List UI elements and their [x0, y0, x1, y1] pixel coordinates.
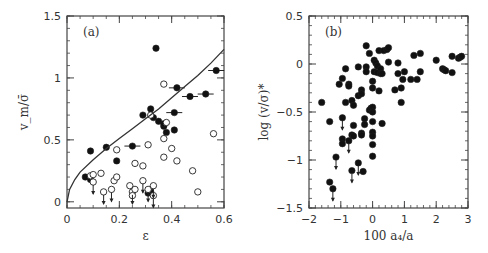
down-arrow-icon: [146, 198, 150, 202]
data-point-filled: [369, 78, 375, 84]
data-point-filled: [355, 64, 361, 70]
data-point-filled: [339, 75, 345, 81]
down-arrow-icon: [347, 150, 351, 154]
data-point-open: [169, 145, 175, 151]
x-axis-title: ε: [142, 229, 148, 243]
data-point-filled: [369, 153, 375, 159]
data-point-open: [161, 154, 167, 160]
data-point-filled: [369, 141, 375, 147]
data-point-filled: [140, 112, 146, 118]
down-arrow-icon: [102, 201, 106, 205]
down-arrow-icon: [356, 172, 360, 176]
data-point-filled: [458, 53, 464, 59]
data-point-filled: [417, 69, 423, 75]
data-point-filled: [163, 129, 169, 135]
x-tick-label: 0: [369, 213, 376, 226]
data-point-filled: [433, 57, 439, 63]
data-point-filled: [355, 160, 361, 166]
data-point-open: [210, 131, 216, 137]
y-tick-label: 1.5: [44, 10, 62, 23]
data-point-filled: [376, 88, 382, 94]
data-point-filled: [414, 76, 420, 82]
data-point-open: [114, 174, 120, 180]
data-point-filled: [443, 68, 449, 74]
x-tick-label: 0.6: [215, 213, 233, 226]
y-tick-label: −1.5: [276, 202, 303, 215]
data-point-filled: [114, 158, 120, 164]
down-arrow-icon: [334, 166, 338, 170]
down-arrow-icon: [340, 127, 344, 131]
data-point-filled: [408, 76, 414, 82]
y-tick-label: 0: [54, 196, 61, 209]
data-point-filled: [369, 133, 375, 139]
data-point-filled: [187, 93, 193, 99]
data-point-filled: [363, 43, 369, 49]
data-point-filled: [363, 69, 369, 75]
data-point-open: [100, 189, 106, 195]
data-point-filled: [398, 85, 404, 91]
data-point-filled: [379, 120, 385, 126]
down-arrow-icon: [331, 198, 335, 202]
data-point-filled: [319, 99, 325, 105]
data-point-filled: [358, 132, 364, 138]
data-point-open: [140, 178, 146, 184]
figure: 00.20.40.600.511.5εv_m/σ̄(a) −2−10123−1.…: [0, 0, 488, 253]
down-arrow-icon: [350, 180, 354, 184]
data-point-filled: [385, 45, 391, 51]
data-point-filled: [346, 138, 352, 144]
data-point-filled: [333, 154, 339, 160]
data-point-open: [98, 170, 104, 176]
panel-label: (b): [325, 25, 342, 39]
data-point-filled: [369, 109, 375, 115]
panel-a-chart: 00.20.40.600.511.5εv_m/σ̄(a): [17, 10, 233, 243]
y-tick-label: −1: [287, 154, 303, 167]
data-point-open: [90, 171, 96, 177]
y-tick-label: 0.5: [286, 10, 304, 23]
y-tick-label: 0: [296, 58, 303, 71]
data-point-filled: [153, 45, 159, 51]
data-point-open: [189, 168, 195, 174]
data-point-filled: [350, 102, 356, 108]
data-point-filled: [336, 81, 342, 87]
data-point-filled: [349, 167, 355, 173]
y-axis-title: v_m/σ̄: [17, 94, 31, 131]
data-point-filled: [369, 118, 375, 124]
data-point-filled: [398, 99, 404, 105]
data-point-filled: [339, 115, 345, 121]
down-arrow-icon: [141, 190, 145, 194]
down-arrow-icon: [91, 191, 95, 195]
data-point-open: [132, 186, 138, 192]
data-point-filled: [87, 148, 93, 154]
panel-b-chart: −2−10123−1.5−1−0.500.5100 a₄/alog (v/σ)*…: [257, 10, 472, 243]
data-point-filled: [346, 83, 352, 89]
y-tick-label: −0.5: [276, 106, 303, 119]
data-point-filled: [327, 118, 333, 124]
data-point-open: [161, 81, 167, 87]
x-tick-label: 0: [64, 213, 71, 226]
data-point-filled: [361, 116, 367, 122]
data-point-filled: [360, 168, 366, 174]
data-point-open: [132, 160, 138, 166]
data-point-filled: [171, 109, 177, 115]
x-tick-label: 0.4: [163, 213, 181, 226]
x-tick-label: −1: [333, 213, 349, 226]
data-point-open: [195, 189, 201, 195]
data-point-open: [90, 179, 96, 185]
y-tick-label: 1: [54, 72, 61, 85]
panel-label: (a): [83, 25, 100, 39]
data-point-open: [140, 163, 146, 169]
data-point-filled: [327, 179, 333, 185]
data-point-open: [114, 147, 120, 153]
x-tick-label: 0.2: [111, 213, 129, 226]
data-point-open: [161, 135, 167, 141]
x-tick-label: 3: [465, 213, 472, 226]
y-tick-label: 0.5: [44, 134, 62, 147]
data-point-filled: [361, 121, 367, 127]
data-point-filled: [203, 91, 209, 97]
data-point-filled: [385, 59, 391, 65]
data-point-filled: [395, 70, 401, 76]
data-point-filled: [366, 50, 372, 56]
data-point-filled: [358, 91, 364, 97]
data-point-filled: [369, 85, 375, 91]
data-point-filled: [342, 66, 348, 72]
